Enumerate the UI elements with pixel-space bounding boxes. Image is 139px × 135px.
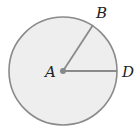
label-b: B [95,4,107,22]
label-a: A [43,63,56,81]
circle-diagram: A B D [0,0,139,135]
center-point [60,68,66,74]
label-d: D [121,63,134,81]
